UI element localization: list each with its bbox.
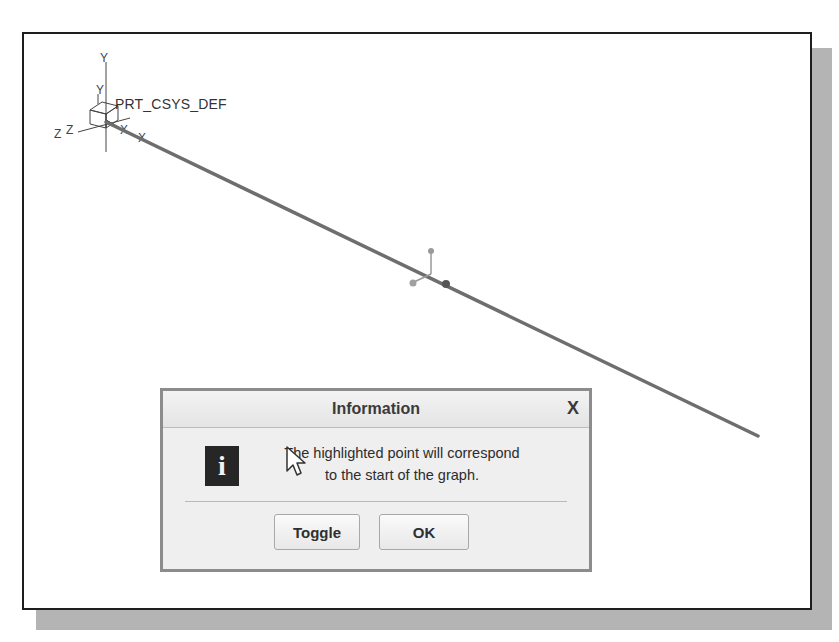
ok-button[interactable]: OK bbox=[379, 514, 469, 550]
highlighted-point-marker bbox=[410, 248, 451, 288]
information-dialog: Information X i The highlighted point wi… bbox=[160, 388, 592, 572]
mouse-pointer-icon bbox=[285, 445, 309, 479]
axis-label-z: Z bbox=[54, 127, 61, 141]
dialog-titlebar[interactable]: Information X bbox=[163, 391, 589, 428]
dialog-button-row: Toggle OK bbox=[163, 500, 589, 570]
dialog-title: Information bbox=[163, 400, 589, 418]
info-icon: i bbox=[205, 446, 239, 486]
csys-label: PRT_CSYS_DEF bbox=[115, 96, 227, 112]
close-icon[interactable]: X bbox=[567, 398, 579, 418]
axis-label-y: Y bbox=[100, 51, 108, 65]
toggle-button[interactable]: Toggle bbox=[274, 514, 360, 550]
dialog-body: i The highlighted point will correspond … bbox=[163, 428, 589, 500]
axis-label-z2: Z bbox=[66, 123, 73, 137]
axis-label-y2: Y bbox=[96, 83, 104, 97]
